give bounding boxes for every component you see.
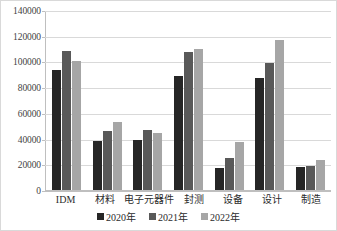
- legend-label: 2022年: [210, 209, 240, 224]
- bar-group: [250, 11, 291, 190]
- chart-legend: 2020年2021年2022年: [1, 209, 336, 224]
- bar[interactable]: [113, 122, 122, 190]
- bar[interactable]: [62, 51, 71, 190]
- bar-group: [87, 11, 128, 190]
- y-axis-tick-label: 0: [36, 186, 41, 196]
- bar[interactable]: [316, 160, 325, 190]
- y-axis-tick-label: 20000: [18, 160, 41, 170]
- bar-group: [168, 11, 209, 190]
- bar[interactable]: [133, 140, 142, 190]
- bar-chart-figure: 140000120000100000800006000040000200000 …: [0, 0, 337, 231]
- bar[interactable]: [194, 49, 203, 190]
- x-axis-category-label: 电子元器件: [124, 192, 174, 208]
- bar[interactable]: [184, 52, 193, 190]
- bar[interactable]: [275, 40, 284, 190]
- legend-label: 2020年: [106, 209, 136, 224]
- x-axis-category-label: 制造: [292, 192, 331, 208]
- x-axis-category-label: 封测: [174, 192, 213, 208]
- bar[interactable]: [153, 133, 162, 190]
- bar[interactable]: [255, 78, 264, 190]
- legend-item[interactable]: 2020年: [97, 209, 136, 224]
- y-axis-tick-label: 100000: [13, 57, 41, 67]
- x-axis-category-label: 设备: [214, 192, 253, 208]
- x-axis-category-label: 材料: [85, 192, 124, 208]
- bar-group: [290, 11, 331, 190]
- legend-swatch-icon: [149, 213, 156, 220]
- bar-group: [127, 11, 168, 190]
- plot-area: [45, 11, 331, 191]
- legend-swatch-icon: [201, 213, 208, 220]
- bar[interactable]: [235, 142, 244, 190]
- bar[interactable]: [296, 167, 305, 190]
- bar[interactable]: [143, 130, 152, 190]
- bar-group: [209, 11, 250, 190]
- bar[interactable]: [215, 168, 224, 190]
- y-axis-tick-label: 120000: [13, 32, 41, 42]
- bar[interactable]: [174, 76, 183, 190]
- bar-groups: [46, 11, 331, 190]
- bar[interactable]: [52, 70, 61, 190]
- bar[interactable]: [225, 158, 234, 190]
- x-axis-labels: IDM材料电子元器件封测设备设计制造: [46, 192, 331, 208]
- legend-swatch-icon: [97, 213, 104, 220]
- bar[interactable]: [265, 63, 274, 190]
- x-axis-category-label: 设计: [253, 192, 292, 208]
- y-axis-tick-label: 60000: [18, 109, 41, 119]
- y-axis-tick-label: 40000: [18, 135, 41, 145]
- bar-group: [46, 11, 87, 190]
- x-axis-category-label: IDM: [46, 192, 85, 208]
- legend-label: 2021年: [158, 209, 188, 224]
- bar[interactable]: [103, 131, 112, 190]
- bar[interactable]: [306, 166, 315, 190]
- legend-item[interactable]: 2021年: [149, 209, 188, 224]
- y-axis-tick-label: 80000: [18, 83, 41, 93]
- bar[interactable]: [72, 61, 81, 190]
- y-axis-tick-label: 140000: [13, 6, 41, 16]
- y-axis-labels: 140000120000100000800006000040000200000: [1, 11, 41, 191]
- bar[interactable]: [93, 141, 102, 190]
- legend-item[interactable]: 2022年: [201, 209, 240, 224]
